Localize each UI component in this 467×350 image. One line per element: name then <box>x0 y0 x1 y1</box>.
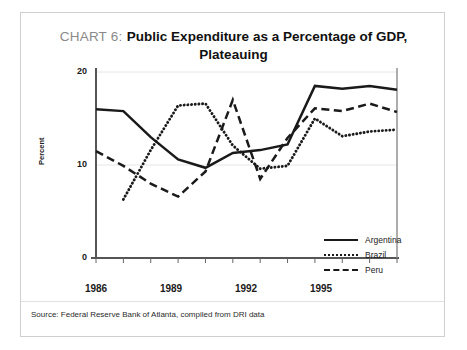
chart-legend: Argentina Brazil Peru <box>324 232 424 277</box>
legend-swatch-dotted-icon <box>324 250 358 260</box>
source-divider <box>21 301 444 302</box>
chart-figure: CHART 6: Public Expenditure as a Percent… <box>20 12 445 337</box>
series-line-brazil <box>123 104 397 200</box>
chart-canvas <box>21 13 446 338</box>
legend-label-brazil: Brazil <box>365 250 386 260</box>
legend-item-peru: Peru <box>324 262 424 277</box>
legend-item-argentina: Argentina <box>324 232 424 247</box>
legend-item-brazil: Brazil <box>324 247 424 262</box>
legend-label-peru: Peru <box>365 265 383 275</box>
legend-swatch-dashed-icon <box>324 265 358 275</box>
plot-area: Percent 20 10 0 1986 1989 1992 1995 <box>21 13 446 338</box>
data-series-layer <box>96 86 397 199</box>
series-line-peru <box>96 100 397 197</box>
legend-swatch-solid-icon <box>324 235 358 245</box>
axis-lines <box>91 68 399 258</box>
legend-label-argentina: Argentina <box>365 235 401 245</box>
source-note: Source: Federal Reserve Bank of Atlanta,… <box>31 310 431 319</box>
